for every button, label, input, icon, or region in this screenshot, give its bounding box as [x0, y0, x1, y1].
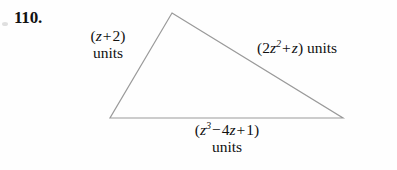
bottom-operator-2: + — [236, 121, 247, 138]
bottom-operator-1: − — [211, 121, 222, 138]
right-side-label: (2z2+z) units — [257, 40, 337, 57]
left-side-label: (z+2) units — [66, 28, 150, 61]
bottom-units: units — [160, 139, 294, 156]
right-units: units — [307, 39, 337, 56]
right-coefficient: 2 — [262, 39, 270, 56]
left-operator: + — [102, 27, 113, 44]
bottom-side-expression: (z3−4z+1) — [160, 122, 294, 139]
right-side-expression: (2z2+z) units — [257, 40, 337, 57]
left-side-expression: (z+2) — [66, 28, 150, 45]
figure-page: 110. (z+2) units (2z2+z) units (z3−4z+1)… — [0, 0, 397, 170]
bottom-constant: 1 — [246, 121, 254, 138]
bottom-variable-2: z — [230, 121, 236, 138]
left-constant: 2 — [113, 27, 121, 44]
right-operator: + — [281, 39, 292, 56]
left-units: units — [66, 45, 150, 62]
left-variable: z — [96, 27, 102, 44]
bottom-side-label: (z3−4z+1) units — [160, 122, 294, 155]
right-term2: z — [292, 39, 298, 56]
bottom-coefficient-2: 4 — [222, 121, 230, 138]
